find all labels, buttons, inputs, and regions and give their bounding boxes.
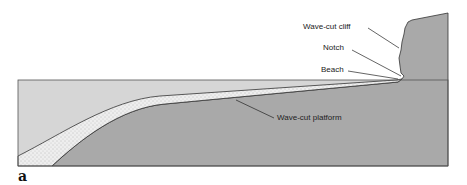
- cross-section-figure: [0, 0, 467, 185]
- wave-cut-cliff-label: Wave-cut cliff: [303, 23, 351, 31]
- panel-label: a: [18, 168, 27, 184]
- wave-cut-platform-label: Wave-cut platform: [277, 114, 342, 122]
- beach-leader-line: [348, 71, 398, 79]
- notch-leader-line: [352, 50, 401, 76]
- beach-label: Beach: [321, 66, 344, 74]
- notch-label: Notch: [323, 44, 344, 52]
- cliff-leader-line: [368, 28, 399, 48]
